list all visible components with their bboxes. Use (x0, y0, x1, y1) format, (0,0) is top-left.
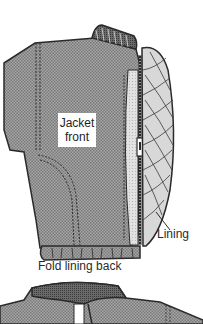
jacket-front-label: Jacket front (58, 113, 96, 147)
figure-caption: Fold lining back (38, 259, 121, 273)
jacket-front-label-line2: front (58, 130, 96, 144)
jacket-front-label-line1: Jacket (58, 116, 96, 130)
second-jacket-partial (0, 282, 203, 324)
lining-flap (142, 47, 174, 246)
jacket-repair-figure: Jacket front Lining Fold lining back (0, 0, 203, 324)
lining-label: Lining (157, 227, 189, 241)
waistband (40, 246, 140, 260)
jacket-illustration (0, 0, 203, 324)
